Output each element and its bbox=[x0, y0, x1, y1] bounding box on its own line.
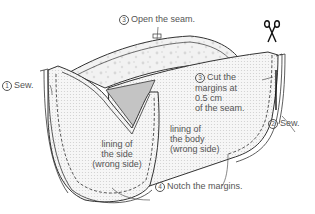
step-3-open-label: 3Open the seam. bbox=[119, 14, 195, 25]
step-4-label: 4Notch the margins. bbox=[155, 181, 243, 192]
side-lining-label: lining of the side (wrong side) bbox=[85, 139, 149, 169]
step-1-label: 1Sew. bbox=[2, 80, 34, 91]
scissors-icon bbox=[265, 21, 280, 42]
step-2-label: 2Sew. bbox=[268, 118, 300, 129]
body-lining-label: lining of the body (wrong side) bbox=[170, 124, 220, 154]
step-3-cut-label: 3Cut the margins at 0.5 cm of the seam. bbox=[195, 72, 245, 113]
